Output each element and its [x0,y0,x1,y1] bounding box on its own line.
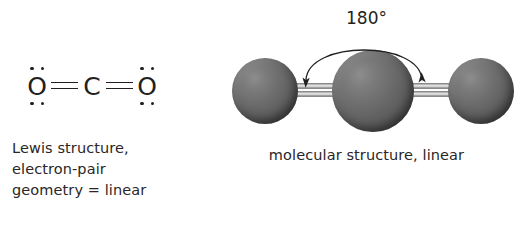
lewis-formula: O C O [24,60,160,112]
electron-dot [151,102,154,105]
lone-pair-bottom-oxygen-left [30,100,43,108]
ball-and-stick-model: 180° [210,0,523,140]
atom-sphere-oxygen-left [232,58,298,124]
lewis-structure-panel: O C O [0,0,210,233]
lewis-double-bond-left [51,82,78,91]
electron-dot [140,67,143,70]
electron-dot [30,102,33,105]
lewis-atom-oxygen-right: O [134,65,160,108]
caption-line: geometry = linear [12,180,202,201]
lone-pair-bottom-oxygen-right [140,100,153,108]
atom-symbol-oxygen-right: O [137,73,157,100]
lewis-structure-caption: Lewis structure, electron-pair geometry … [12,138,202,201]
lewis-atom-oxygen-left: O [24,65,50,108]
bond-angle-label: 180° [210,8,523,28]
caption-line: Lewis structure, [12,138,202,159]
atom-sphere-oxygen-right [448,58,514,124]
caption-line: electron-pair [12,159,202,180]
atom-sphere-carbon [332,50,414,132]
atom-symbol-carbon: C [83,73,100,100]
electron-dot [151,67,154,70]
lewis-atom-carbon: C [79,65,105,108]
electron-dot [140,102,143,105]
atom-symbol-oxygen-left: O [27,73,47,100]
molecular-structure-panel: 180° molecular structure, linear [210,0,523,233]
electron-dot [41,102,44,105]
electron-dot [41,67,44,70]
electron-dot [30,67,33,70]
lewis-double-bond-right [106,82,133,91]
molecular-structure-caption: molecular structure, linear [210,145,523,166]
